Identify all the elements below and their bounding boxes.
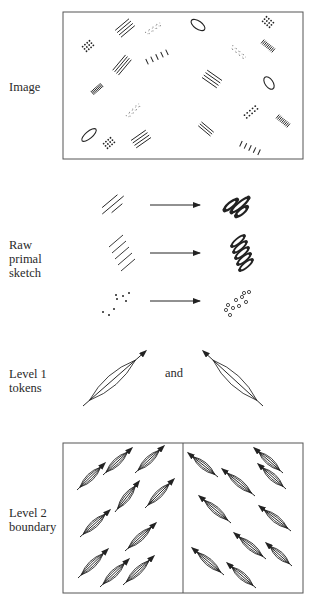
row-label-raw-primal-sketch: Raw primal sketch (9, 238, 42, 280)
raw-primal-sketch-group (99, 190, 256, 317)
texture-element-faint-dots (125, 103, 141, 119)
texture-element-dense-lines (261, 40, 275, 53)
texture-element-ellipse (80, 127, 98, 144)
texture-element-lines (113, 55, 132, 75)
token-icon (220, 466, 258, 499)
texture-element-faint-dots (145, 22, 162, 36)
texture-element-dots (261, 16, 274, 29)
raw-long-lines (99, 192, 127, 218)
row-label-image: Image (9, 80, 40, 94)
token-icon (224, 560, 258, 591)
token-icon (263, 540, 294, 569)
texture-element-dots (243, 105, 259, 119)
texture-element-faint-dots (230, 45, 247, 60)
level-2-token-group (75, 443, 295, 591)
texture-element-ellipse (262, 75, 277, 91)
token-icon (79, 347, 149, 411)
texture-element-ellipse (189, 17, 207, 33)
token-icon (98, 556, 132, 589)
token-icon (101, 445, 135, 477)
texture-element-lines (131, 130, 151, 148)
row-label-level-2-boundary: Level 2 boundary (9, 506, 56, 534)
token-icon (199, 347, 267, 410)
token-icon (196, 493, 233, 526)
texture-element-lines (198, 122, 213, 136)
token-icon (257, 503, 294, 534)
token-icon (123, 520, 159, 554)
token-icon (232, 530, 269, 562)
row-label-level-1-tokens: Level 1 tokens (9, 367, 47, 395)
texture-element-dots (102, 137, 115, 150)
blob-pins (221, 190, 255, 223)
texture-element-dots (81, 40, 94, 53)
texture-element-dense-lines (276, 115, 290, 128)
token-icon (133, 443, 167, 475)
token-icon (143, 476, 177, 510)
token-icon (75, 460, 108, 492)
texture-element-dense-lines (91, 83, 103, 95)
raw-stacked-lines (109, 235, 135, 271)
token-icon (78, 507, 113, 540)
texture-element-lines (115, 19, 135, 37)
connector-and-text: and (165, 366, 183, 381)
image-elements (80, 16, 290, 155)
token-icon (186, 450, 221, 480)
texture-element-short-ticks (146, 50, 168, 65)
token-icon (112, 479, 142, 515)
token-icon (121, 553, 157, 587)
texture-element-lines (202, 70, 222, 88)
image-panel (63, 12, 303, 159)
raw-sparse-dots (102, 292, 130, 316)
texture-element-short-ticks (240, 141, 261, 155)
token-icon (189, 545, 226, 578)
token-icon (76, 546, 111, 580)
stacked-blobs (229, 233, 255, 273)
open-circles (224, 290, 250, 316)
